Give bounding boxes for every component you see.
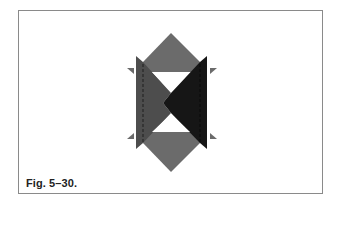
top-diamond-half — [143, 33, 200, 72]
tab-top-right — [210, 68, 217, 74]
tab-bottom-right — [210, 133, 217, 139]
figure-caption: Fig. 5–30. — [26, 177, 77, 189]
tab-bottom-left — [127, 133, 134, 139]
bottom-diamond-half — [143, 132, 200, 172]
tab-top-left — [127, 68, 134, 74]
